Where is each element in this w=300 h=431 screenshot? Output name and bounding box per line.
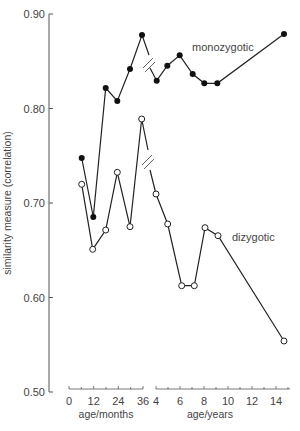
- twin-similarity-chart: 0.90 0.80 0.70 0.60 0.50 similarity meas…: [0, 0, 300, 431]
- y-axis: 0.90 0.80 0.70 0.60 0.50 similarity meas…: [1, 8, 53, 398]
- x-tick-label: 4: [153, 395, 159, 407]
- series-monozygotic: monozygotic: [79, 31, 287, 220]
- x-tick-label: 14: [270, 395, 282, 407]
- x-tick-label: 10: [222, 395, 234, 407]
- y-tick-label: 0.80: [24, 103, 45, 115]
- axis-break-mark: [143, 58, 153, 68]
- y-tick-label: 0.90: [24, 8, 45, 20]
- x-tick-label: 24: [112, 395, 124, 407]
- x-tick-label: 6: [177, 395, 183, 407]
- x-axis-months: 0 12 24 36 age/months: [66, 386, 149, 420]
- y-tick-label: 0.50: [24, 386, 45, 398]
- y-axis-label: similarity measure (correlation): [1, 131, 13, 275]
- x-tick-label: 8: [201, 395, 207, 407]
- y-tick-label: 0.60: [24, 292, 45, 304]
- x-tick-label: 0: [66, 395, 72, 407]
- x-tick-label: 36: [137, 395, 149, 407]
- axis-break-mark: [142, 155, 152, 165]
- series-dizygotic: dizygotic: [79, 116, 287, 344]
- x-axis-label-months: age/months: [79, 408, 134, 420]
- axis-break-mark: [145, 62, 155, 72]
- y-tick-label: 0.70: [24, 197, 45, 209]
- dizygotic-label: dizygotic: [232, 231, 275, 243]
- monozygotic-label: monozygotic: [192, 41, 254, 53]
- x-axis-label-years: age/years: [187, 408, 233, 420]
- dizygotic-markers: [79, 116, 287, 344]
- x-axis-years: 4 6 8 10 12 14 age/years: [153, 386, 290, 420]
- axis-break-mark: [144, 159, 154, 169]
- x-tick-label: 12: [88, 395, 100, 407]
- x-tick-label: 12: [246, 395, 258, 407]
